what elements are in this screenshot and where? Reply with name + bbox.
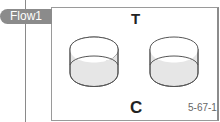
flow-tag: Flow1 (0, 9, 52, 24)
right-cylinder-icon (148, 35, 200, 90)
bottom-label: C (130, 98, 142, 118)
left-cylinder-icon (68, 35, 120, 90)
figure-caption: 5-67-1 (188, 102, 217, 113)
top-label: T (131, 10, 140, 27)
